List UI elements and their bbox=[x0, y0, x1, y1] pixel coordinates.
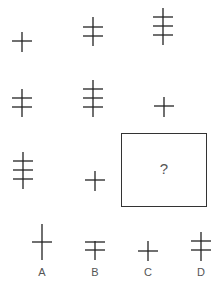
option-b-label[interactable]: B bbox=[87, 266, 103, 278]
option-a-label[interactable]: A bbox=[34, 266, 50, 278]
cross-one-bar-icon bbox=[138, 241, 158, 261]
option-c-label[interactable]: C bbox=[140, 266, 156, 278]
figure-r1c2-two-bars bbox=[83, 17, 103, 46]
cross-one-bar-icon bbox=[85, 171, 105, 191]
option-c-figure[interactable] bbox=[138, 241, 158, 261]
cross-three-bars-icon bbox=[153, 8, 173, 45]
option-d-figure[interactable] bbox=[191, 232, 211, 261]
option-d-label[interactable]: D bbox=[193, 266, 209, 278]
option-a-figure[interactable] bbox=[32, 224, 52, 260]
cross-top-bar-two-bars-icon bbox=[85, 241, 105, 260]
figure-r2c2-three-bars bbox=[83, 80, 103, 117]
answer-placeholder-box: ? bbox=[121, 133, 207, 207]
cross-two-bars-icon bbox=[12, 89, 32, 117]
figure-r3c2-one-bar bbox=[85, 171, 105, 191]
question-mark: ? bbox=[122, 160, 206, 177]
figure-r1c1-one-bar bbox=[12, 32, 32, 52]
figure-r2c1-two-bars bbox=[12, 89, 32, 117]
figure-r2c3-one-bar bbox=[154, 97, 174, 117]
figure-r3c1-three-bars bbox=[13, 152, 33, 189]
figure-r1c3-three-bars bbox=[153, 8, 173, 45]
cross-tall-one-bar-icon bbox=[32, 224, 52, 260]
cross-two-bars-icon bbox=[83, 17, 103, 46]
cross-three-bars-icon bbox=[13, 152, 33, 189]
option-b-figure[interactable] bbox=[85, 241, 105, 260]
cross-one-bar-icon bbox=[12, 32, 32, 52]
cross-two-bars-icon bbox=[191, 232, 211, 261]
cross-one-bar-icon bbox=[154, 97, 174, 117]
cross-three-bars-icon bbox=[83, 80, 103, 117]
